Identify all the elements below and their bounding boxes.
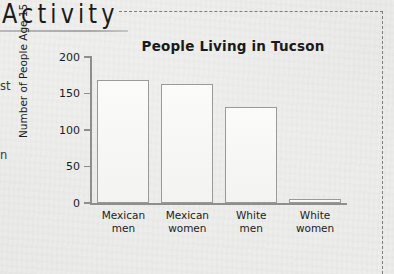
- y-axis-line: [90, 56, 92, 204]
- bar: [289, 199, 341, 203]
- y-tick-mark: [84, 166, 90, 168]
- y-axis-ticks: 050100150200: [0, 0, 90, 274]
- category-label-line: White: [283, 209, 347, 222]
- y-tick-mark: [84, 202, 90, 204]
- category-label-line: women: [155, 222, 219, 235]
- category-label-line: Mexican: [155, 209, 219, 222]
- category-label-line: Mexican: [92, 209, 156, 222]
- y-tick-label: 50: [42, 161, 80, 172]
- y-tick-label: 0: [42, 198, 80, 209]
- chart-title: People Living in Tucson: [118, 38, 348, 54]
- y-tick-mark: [84, 129, 90, 131]
- category-label: Whitemen: [219, 209, 283, 235]
- bar: [161, 84, 213, 203]
- bar-chart: People Living in Tucson Number of People…: [0, 0, 394, 274]
- y-tick-label: 200: [42, 52, 80, 63]
- category-label-line: White: [219, 209, 283, 222]
- bar: [97, 80, 149, 203]
- y-tick-label: 100: [42, 125, 80, 136]
- y-tick-mark: [84, 93, 90, 95]
- category-label-line: women: [283, 222, 347, 235]
- category-label: Mexicanwomen: [155, 209, 219, 235]
- category-label-line: men: [219, 222, 283, 235]
- y-tick-mark: [84, 56, 90, 58]
- category-label-line: men: [92, 222, 156, 235]
- category-label: Whitewomen: [283, 209, 347, 235]
- y-tick-label: 150: [42, 88, 80, 99]
- bar: [225, 107, 277, 203]
- category-label: Mexicanmen: [92, 209, 156, 235]
- x-axis-line: [90, 203, 347, 205]
